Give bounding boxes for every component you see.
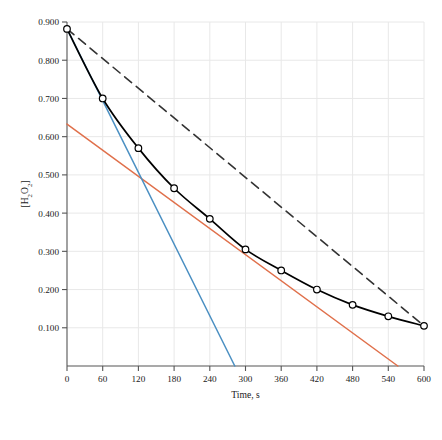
y-tick-label: 0.100 <box>38 323 59 333</box>
x-tick-label: 120 <box>132 374 146 384</box>
y-tick-label: 0.400 <box>38 209 59 219</box>
x-tick-label: 480 <box>346 374 360 384</box>
data-point-marker <box>278 267 285 274</box>
data-point-marker <box>385 313 392 320</box>
y-tick-label: 0.900 <box>38 17 59 27</box>
x-tick-label: 0 <box>65 374 70 384</box>
data-point-marker <box>421 323 428 330</box>
x-tick-label: 60 <box>98 374 108 384</box>
chart-figure: 0.1000.2000.3000.4000.5000.6000.7000.800… <box>0 0 442 440</box>
data-point-marker <box>207 216 214 223</box>
y-axis-title: [H2O2] <box>19 180 33 207</box>
x-tick-label: 600 <box>417 374 431 384</box>
x-tick-label: 420 <box>310 374 324 384</box>
series-tangent-at-t300 <box>67 124 398 366</box>
x-axis-ticks: 060120180240300360420480540600 <box>65 366 432 384</box>
x-tick-label: 180 <box>167 374 181 384</box>
data-point-marker <box>171 185 178 192</box>
x-tick-label: 240 <box>203 374 217 384</box>
data-point-marker <box>349 302 356 309</box>
x-tick-label: 360 <box>274 374 288 384</box>
x-tick-label: 540 <box>381 374 395 384</box>
data-point-marker <box>64 26 71 33</box>
series-line-tangent-at-t300 <box>67 124 398 366</box>
kinetics-plot: 0.1000.2000.3000.4000.5000.6000.7000.800… <box>0 0 442 440</box>
y-tick-label: 0.500 <box>38 170 59 180</box>
x-tick-label: 300 <box>239 374 253 384</box>
data-point-marker <box>99 95 106 102</box>
data-point-marker <box>135 145 142 152</box>
data-point-marker <box>242 246 249 253</box>
data-point-marker <box>314 286 321 293</box>
y-tick-label: 0.200 <box>38 285 59 295</box>
y-tick-label: 0.300 <box>38 247 59 257</box>
x-axis-title: Time, s <box>231 389 260 400</box>
y-axis-ticks: 0.1000.2000.3000.4000.5000.6000.7000.800… <box>38 17 67 333</box>
y-tick-label: 0.700 <box>38 94 59 104</box>
y-tick-label: 0.800 <box>38 56 59 66</box>
y-tick-label: 0.600 <box>38 132 59 142</box>
